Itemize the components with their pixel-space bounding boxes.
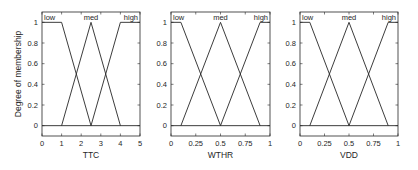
x-tick-label: 5 [138, 139, 142, 148]
y-tick-label: 0.4 [28, 80, 38, 89]
y-tick-label: 0.8 [28, 39, 38, 48]
x-tick-label: 0.25 [317, 139, 332, 148]
mf-med [181, 22, 260, 125]
mf-med [62, 22, 121, 125]
x-tick-label: 0.5 [215, 139, 225, 148]
y-tick-label: 0 [292, 121, 296, 130]
chart-ttc: 00.20.40.60.81012345TTCDegree of members… [13, 12, 142, 160]
mf-high [349, 22, 398, 125]
x-tick-label: 0 [298, 139, 302, 148]
y-tick-label: 0.2 [157, 101, 167, 110]
x-tick-label: 1 [60, 139, 64, 148]
y-tick-label: 1 [34, 18, 38, 27]
y-tick-label: 0 [34, 121, 38, 130]
mf-label-low: low [302, 13, 314, 22]
mf-med [310, 22, 388, 125]
chart-vdd: 00.20.40.60.8100.250.50.751VDDlowmedhigh [286, 12, 401, 160]
mf-label-high: high [254, 13, 268, 22]
x-tick-label: 1 [396, 139, 400, 148]
membership-functions-figure: 00.20.40.60.81012345TTCDegree of members… [0, 0, 418, 170]
chart-wthr: 00.20.40.60.8100.250.50.751WTHRlowmedhig… [157, 12, 273, 160]
x-tick-label: 0.75 [366, 139, 381, 148]
mf-label-med: med [84, 13, 99, 22]
x-tick-label: 0.25 [188, 139, 203, 148]
axes-frame [42, 12, 140, 136]
axes-frame [171, 12, 270, 136]
mf-label-low: low [173, 13, 185, 22]
y-tick-label: 0.4 [286, 80, 296, 89]
y-tick-label: 0.6 [286, 59, 296, 68]
y-tick-label: 0.2 [28, 101, 38, 110]
mf-label-high: high [124, 13, 138, 22]
mf-high [91, 22, 140, 125]
y-tick-label: 0.4 [157, 80, 167, 89]
y-tick-label: 0.6 [28, 59, 38, 68]
y-tick-label: 0.2 [286, 101, 296, 110]
x-axis-label: WTHR [208, 150, 234, 160]
y-tick-label: 1 [163, 18, 167, 27]
x-tick-label: 1 [268, 139, 272, 148]
x-axis-label: TTC [83, 150, 100, 160]
x-axis-label: VDD [340, 150, 358, 160]
y-tick-label: 1 [292, 18, 296, 27]
mf-label-low: low [44, 13, 56, 22]
mf-label-med: med [342, 13, 357, 22]
y-tick-label: 0.8 [286, 39, 296, 48]
mf-low [42, 22, 91, 125]
x-tick-label: 0 [169, 139, 173, 148]
x-tick-label: 3 [99, 139, 103, 148]
x-tick-label: 0 [40, 139, 44, 148]
mf-label-med: med [213, 13, 228, 22]
y-tick-label: 0.6 [157, 59, 167, 68]
mf-low [300, 22, 349, 125]
x-tick-label: 2 [79, 139, 83, 148]
mf-high [221, 22, 271, 125]
y-tick-label: 0 [163, 121, 167, 130]
x-tick-label: 0.5 [344, 139, 354, 148]
y-tick-label: 0.8 [157, 39, 167, 48]
y-axis-label: Degree of membership [13, 31, 23, 118]
mf-label-high: high [382, 13, 396, 22]
x-tick-label: 0.75 [238, 139, 253, 148]
x-tick-label: 4 [118, 139, 122, 148]
mf-low [171, 22, 221, 125]
axes-frame [300, 12, 398, 136]
